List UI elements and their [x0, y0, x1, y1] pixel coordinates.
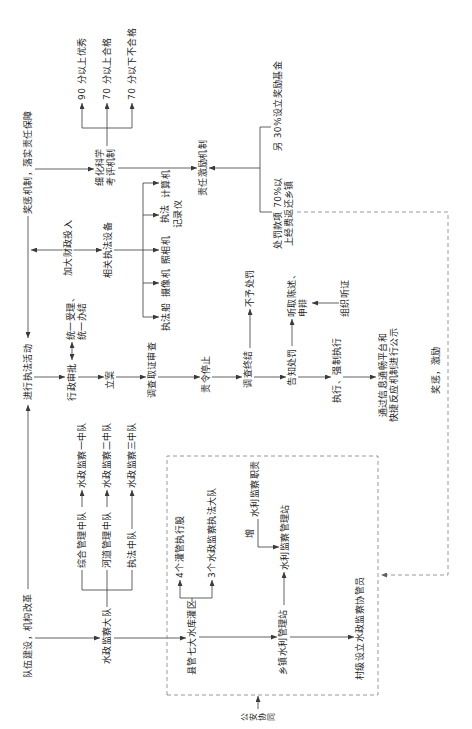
- grade-excellent: 90 分以上优秀: [77, 37, 88, 100]
- equipment-item: 计算机: [161, 170, 172, 198]
- squad-target-node: 水政监察三中队: [127, 422, 138, 488]
- administrative-approval-node: 行政审批: [67, 363, 78, 401]
- village-assistant-node: 村级设立水政监察协管员: [355, 577, 366, 680]
- squad-node: 河道管理中队: [102, 512, 113, 568]
- unified-handling-line-2: 统一办结: [77, 293, 88, 340]
- fine-return-line-2: 上经费返还乡镇: [284, 177, 295, 248]
- fine-return-line-1: 处罚款项 70%以: [273, 177, 284, 248]
- reward-fund-node: 另 30%设立奖励基金: [273, 61, 284, 151]
- squad-target-node: 水政监察一中队: [77, 422, 88, 488]
- statement-defense-line-2: 申辩: [298, 270, 309, 317]
- publicity-line-1: 通过信息通畅平台和: [378, 328, 389, 422]
- investigation-end-node: 调查终结: [243, 350, 254, 388]
- county-jurisdiction-box: [167, 456, 378, 695]
- incentive-node: 责任激励机制: [198, 140, 209, 196]
- supervision-station-node: 水利监察管理站: [280, 504, 291, 570]
- supervision-duty-node: 水利监察职责: [250, 461, 261, 517]
- order-to-stop-node: 责令停止: [201, 355, 212, 393]
- equipment-item: 摄像机: [161, 269, 172, 297]
- arrow-duty-to-supervision: [258, 519, 279, 547]
- fine-return-node: 处罚款项 70%以 上经费返还乡镇: [273, 177, 295, 248]
- penalty-notice-node: 告知处罚: [287, 348, 298, 386]
- police-char: 协: [258, 712, 267, 722]
- add-label: 增: [245, 528, 256, 537]
- squad-node: 执法中队: [127, 530, 138, 568]
- statement-defense-node: 听取陈述、 申辩: [287, 270, 309, 317]
- unified-handling-line-1: 统一受理、: [66, 293, 77, 340]
- reservoir-district-node: 县管七大水库灌区: [187, 600, 198, 675]
- dashed-feedback-arrow: [297, 212, 448, 575]
- police-char: 公: [240, 712, 249, 722]
- brigade-node: 水政监察大队: [102, 608, 113, 664]
- publicity-line-2: 快捷反应机制进行公示: [389, 328, 400, 422]
- grade-unqualified: 70 分以下不合格: [127, 28, 138, 100]
- squad-target-node: 水政监察二中队: [102, 422, 113, 488]
- investigation-node: 调查取证审查: [147, 342, 158, 398]
- evaluation-line-1: 细化科学: [95, 148, 106, 186]
- publicity-node: 通过信息通畅平台和 快捷反应机制进行公示: [378, 328, 400, 422]
- equipment-item: 执法船: [161, 303, 172, 331]
- equipment-node: 相关执法设备: [103, 222, 114, 278]
- squad-node: 综合管理中队: [77, 512, 88, 568]
- enforcement-activity-node: 进行执法活动: [23, 344, 34, 400]
- equipment-item-line-1: 执法: [159, 200, 172, 228]
- team-building-label: 队伍建设，机构改革: [23, 593, 34, 678]
- township-station-node: 乡镇水利管理站: [278, 609, 289, 675]
- evaluation-line-2: 考评机制: [106, 148, 117, 186]
- no-penalty-node: 不予处罚: [245, 269, 256, 307]
- enforcement-node: 执行、强制执行: [332, 337, 343, 403]
- evaluation-node: 细化科学 考评机制: [95, 148, 117, 186]
- flowchart-canvas: 队伍建设，机构改革 进行执法活动 奖惩机制，落实责任保障 水政监察大队 综合管理…: [0, 0, 472, 729]
- equipment-item: 执法 记录仪: [159, 200, 185, 228]
- police-coordination-label: 公 安 协 同: [240, 712, 276, 722]
- feedback-label: 奖惩，激励: [431, 347, 442, 394]
- hearing-node: 组织听证: [340, 279, 351, 317]
- sub-unit-node: 3个水政监察执法大队: [207, 487, 218, 578]
- grade-qualified: 70 分以上合格: [102, 37, 113, 100]
- funding-label: 加大财政投入: [63, 218, 74, 278]
- sub-unit-node: 4个灌管执行股: [175, 515, 186, 578]
- unified-handling-node: 统一受理、 统一办结: [66, 293, 88, 340]
- police-char: 安: [249, 712, 258, 722]
- reward-mechanism-label: 奖惩机制，落实责任保障: [23, 111, 34, 214]
- police-char: 同: [267, 712, 276, 722]
- equipment-item-line-2: 记录仪: [172, 200, 185, 228]
- equipment-item: 照相机: [161, 236, 172, 264]
- statement-defense-line-1: 听取陈述、: [287, 270, 298, 317]
- case-filing-node: 立案: [105, 371, 116, 390]
